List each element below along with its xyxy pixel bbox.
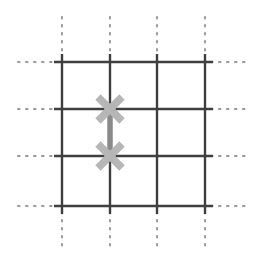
figure-background xyxy=(0,0,258,259)
lattice-figure: Square lattice with bond-connected defec… xyxy=(0,0,258,259)
lattice-canvas xyxy=(0,0,258,259)
